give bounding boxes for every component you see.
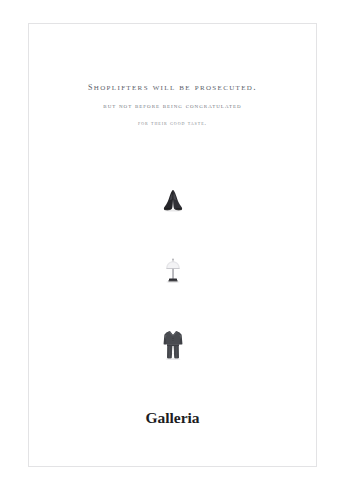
product-image-shoes	[0, 186, 346, 214]
headline-line-2: But not before being congratulated	[28, 101, 317, 111]
headline-block: Shoplifters will be prosecuted. But not …	[28, 80, 317, 128]
product-image-suit	[0, 328, 346, 362]
shoes-photo-icon	[160, 188, 186, 212]
suit-photo-icon	[161, 329, 185, 361]
advertisement-poster: Shoplifters will be prosecuted. But not …	[0, 0, 346, 491]
headline-line-1: Shoplifters will be prosecuted.	[28, 80, 317, 93]
headline-line-3: for their good taste.	[28, 119, 317, 128]
table-lamp-photo-icon	[161, 257, 185, 285]
brand-block: Galleria	[28, 409, 317, 432]
brand-wordmark: Galleria	[28, 409, 317, 427]
product-image-lamp	[0, 256, 346, 286]
